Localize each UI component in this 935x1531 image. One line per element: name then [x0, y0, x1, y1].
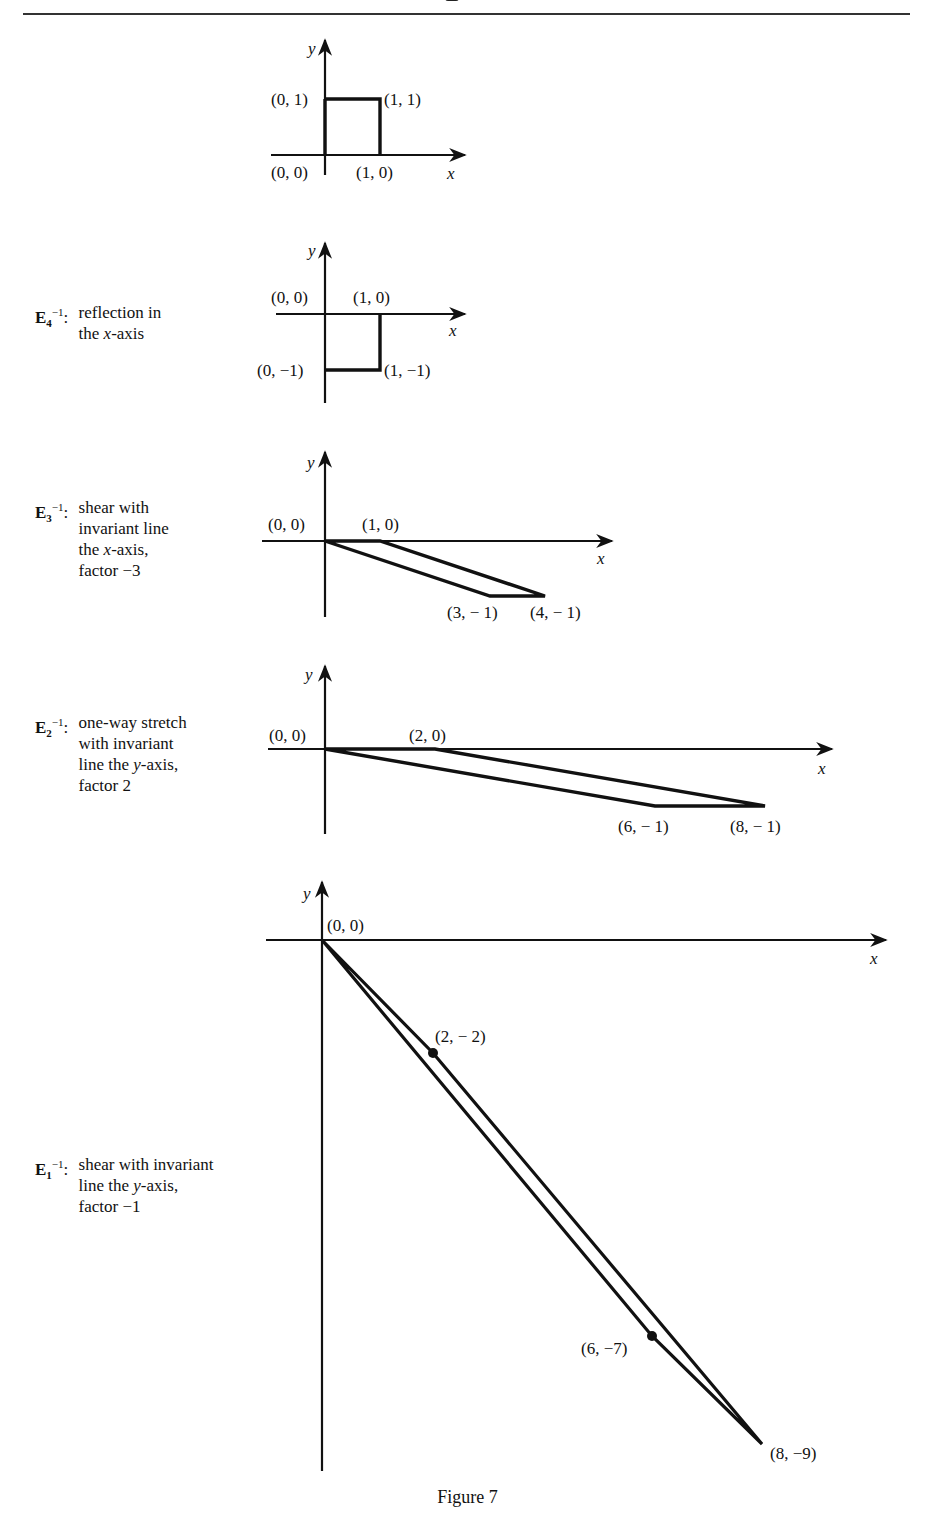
operator-symbol: E3−1 [35, 503, 64, 522]
point-label: (0, 0) [327, 915, 364, 936]
stretched-parallelogram [325, 749, 765, 806]
sheared-parallelogram [325, 541, 545, 596]
point-label: (6, −7) [581, 1338, 627, 1359]
e2-description: E2−1: one-way stretch with invariant lin… [35, 712, 187, 796]
point-label: (0, 0) [268, 514, 305, 535]
e3-description: E3−1: shear with invariant line the x-ax… [35, 497, 169, 581]
point-label: (1, 0) [356, 162, 393, 183]
y-axis-label: y [307, 452, 315, 473]
point-label: (1, 0) [362, 514, 399, 535]
point-label: (6, − 1) [618, 816, 669, 837]
point-label: (2, 0) [409, 725, 446, 746]
panel-e4-reflection [276, 243, 465, 403]
point-label: (3, − 1) [447, 602, 498, 623]
point-label: (8, −9) [770, 1443, 816, 1464]
point-label: (1, 0) [353, 287, 390, 308]
point-label: (0, 1) [271, 89, 308, 110]
point-label: (2, − 2) [435, 1026, 486, 1047]
point-label: (4, − 1) [530, 602, 581, 623]
y-axis-label: y [305, 664, 313, 685]
point-label: (0, 0) [269, 725, 306, 746]
reflected-square-outline [325, 314, 380, 370]
x-axis-label: x [870, 948, 878, 969]
y-axis-label: y [303, 883, 311, 904]
point-6-neg7-dot [647, 1331, 657, 1341]
x-axis-label: x [818, 758, 826, 779]
y-axis-label: y [308, 240, 316, 261]
point-label: (0, −1) [257, 360, 303, 381]
sheared-thin-parallelogram [322, 940, 762, 1444]
point-label: (0, 0) [271, 287, 308, 308]
textbook-page: y (0, 1) (1, 1) (0, 0) (1, 0) x E4−1: re… [0, 0, 935, 1531]
operator-symbol: E2−1 [35, 718, 64, 737]
figure-caption: Figure 7 [0, 1487, 935, 1508]
point-label: (0, 0) [271, 162, 308, 183]
point-label: (1, 1) [384, 89, 421, 110]
point-label: (1, −1) [384, 360, 430, 381]
panel-e1-shear [266, 882, 886, 1471]
e1-description: E1−1: shear with invariant line the y-ax… [35, 1154, 214, 1217]
panel-e2-stretch [268, 666, 832, 834]
operator-symbol: E1−1 [35, 1160, 64, 1179]
x-axis-label: x [447, 163, 455, 184]
y-axis-label: y [308, 38, 316, 59]
operator-symbol: E4−1 [35, 308, 64, 327]
x-axis-label: x [597, 548, 605, 569]
panel-e3-shear [262, 452, 612, 617]
square-outline [325, 99, 380, 155]
point-2-neg2-dot [428, 1048, 438, 1058]
x-axis-label: x [449, 320, 457, 341]
e4-description: E4−1: reflection in the x-axis [35, 302, 161, 344]
point-label: (8, − 1) [730, 816, 781, 837]
